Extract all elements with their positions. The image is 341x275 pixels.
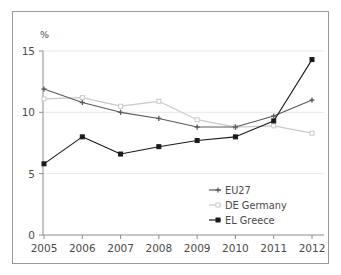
x-tick-label: 2012 [299,242,326,254]
data-point-marker [119,152,123,156]
y-axis-unit-label-text: % [40,29,49,40]
data-point-marker [272,124,276,128]
data-point-marker [233,135,237,139]
x-tick-label: 2007 [107,242,134,254]
data-point-marker [216,218,220,222]
x-tick-label: 2011 [260,242,287,254]
legend-item-de-germany[interactable]: DE Germany [209,200,287,211]
data-point-marker [310,58,314,62]
y-tick-label: 10 [22,106,35,118]
y-axis-unit-label: % [40,29,49,40]
x-tick-label: 2006 [69,242,96,254]
data-point-marker [216,203,220,207]
data-point-marker [42,97,46,101]
data-point-marker [195,139,199,143]
y-tick-label: 15 [22,45,35,57]
chart-frame: 051015 20052006200720082009201020112012 … [12,11,329,264]
data-point-marker [42,162,46,166]
line-chart-plot: 051015 20052006200720082009201020112012 … [13,12,328,263]
legend-item-el-greece[interactable]: EL Greece [209,215,275,226]
data-point-marker [80,96,84,100]
x-tick-label: 2005 [31,242,58,254]
series-el-greece [42,58,314,166]
data-point-marker [119,104,123,108]
data-point-marker [272,119,276,123]
x-tick-label: 2008 [145,242,172,254]
y-axis-ticks: 051015 [22,45,43,241]
data-point-marker [157,145,161,149]
data-series [41,58,314,166]
y-tick-label: 5 [28,168,35,180]
legend-label: DE Germany [225,200,287,211]
data-point-marker [157,99,161,103]
data-point-marker [80,135,84,139]
legend-label: EL Greece [225,215,275,226]
x-axis-ticks: 20052006200720082009201020112012 [31,235,326,254]
data-point-marker [195,118,199,122]
chart-legend: EU27DE GermanyEL Greece [209,185,287,226]
series-line [44,60,312,164]
x-tick-label: 2010 [222,242,249,254]
chart-figure: 051015 20052006200720082009201020112012 … [0,0,341,275]
legend-label: EU27 [225,185,251,196]
legend-item-eu27[interactable]: EU27 [209,185,251,196]
x-tick-label: 2009 [184,242,211,254]
data-point-marker [310,131,314,135]
y-tick-label: 0 [28,229,35,241]
